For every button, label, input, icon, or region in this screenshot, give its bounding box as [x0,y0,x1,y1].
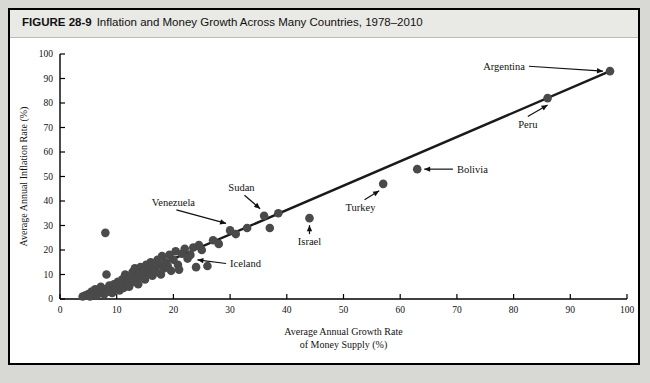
y-tick-label-10: 10 [44,270,54,280]
y-tick-label-60: 60 [44,147,54,157]
data-point [214,240,223,249]
y-tick-label-80: 80 [44,98,54,108]
annotation-label-iceland: Iceland [230,258,262,269]
x-tick-label-20: 20 [169,305,179,315]
data-point [305,214,314,223]
data-point [175,265,184,274]
plot-area: 0102030405060708090100010203040506070809… [10,38,638,363]
annotation-arrowhead-argentina [597,68,603,73]
x-tick-label-10: 10 [112,305,122,315]
data-point [197,246,206,255]
annotation-arrowhead-bolivia [424,166,430,171]
y-tick-label-30: 30 [44,221,54,231]
x-tick-label-30: 30 [225,305,235,315]
data-point [413,165,422,174]
data-point [101,229,110,238]
annotation-arrow-line-venezuela [176,210,226,224]
data-point [543,94,552,103]
x-tick-label-70: 70 [452,305,462,315]
y-axis-title: Average Annual Inflation Rate (%) [18,107,30,247]
x-tick-label-80: 80 [509,305,519,315]
figure-title-text: Inflation and Money Growth Across Many C… [97,16,423,28]
data-point [274,209,283,218]
data-point [167,267,176,276]
scatter-chart: 0102030405060708090100010203040506070809… [10,38,638,365]
x-axis-title-line2: of Money Supply (%) [300,339,388,351]
data-point [243,224,252,233]
annotation-label-argentina: Argentina [483,61,525,72]
annotation-label-sudan: Sudan [228,182,255,193]
annotation-label-peru: Peru [518,119,538,130]
figure-title: FIGURE 28-9Inflation and Money Growth Ac… [22,16,423,28]
x-tick-label-40: 40 [282,305,292,315]
y-tick-label-100: 100 [39,49,54,59]
annotation-arrowhead-israel [307,225,312,231]
annotation-label-turkey: Turkey [346,202,377,213]
x-tick-label-60: 60 [395,305,405,315]
data-point [606,67,615,76]
data-point [192,263,201,272]
data-point [260,211,269,220]
annotation-label-bolivia: Bolivia [457,164,488,175]
y-tick-label-0: 0 [48,294,53,304]
x-axis-title-line1: Average Annual Growth Rate [284,326,403,337]
annotation-label-venezuela: Venezuela [152,197,195,208]
y-tick-label-70: 70 [44,123,54,133]
data-point [203,262,212,271]
y-tick-label-50: 50 [44,172,54,182]
y-tick-label-40: 40 [44,196,54,206]
figure-header-band: FIGURE 28-9Inflation and Money Growth Ac… [10,10,638,38]
data-point [186,251,195,260]
annotation-label-israel: Israel [298,236,321,247]
figure-container: FIGURE 28-9Inflation and Money Growth Ac… [8,8,640,365]
data-point [379,180,388,189]
x-tick-label-90: 90 [566,305,576,315]
figure-number: FIGURE 28-9 [22,16,92,28]
data-point [231,230,240,239]
data-point [102,270,111,279]
annotation-arrow-line-argentina [529,66,603,71]
annotation-arrowhead-iceland [197,258,203,263]
y-tick-label-20: 20 [44,245,54,255]
x-tick-label-50: 50 [339,305,349,315]
x-tick-label-0: 0 [58,305,63,315]
x-tick-label-100: 100 [620,305,635,315]
data-point [265,224,274,233]
y-tick-label-90: 90 [44,74,54,84]
